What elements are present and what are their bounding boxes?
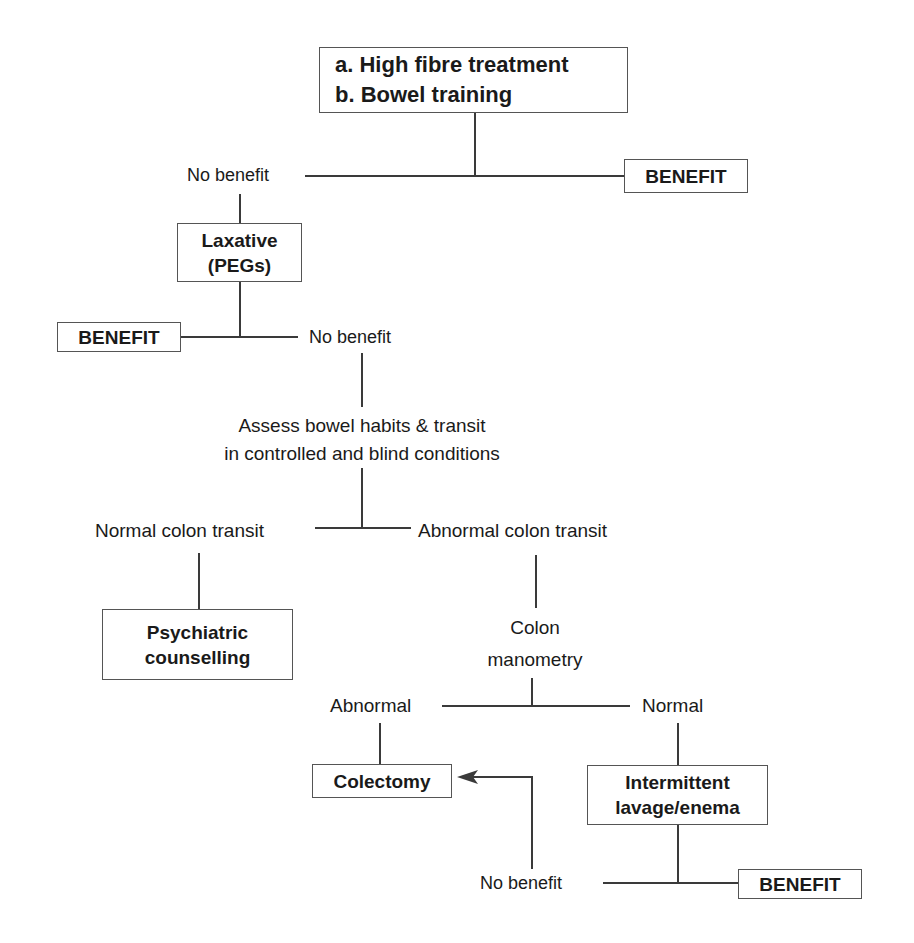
connector-assess-down (361, 468, 363, 528)
connector-to-lavage (677, 723, 679, 765)
psychiatric-line2: counselling (145, 645, 251, 670)
level3-no-benefit-label: No benefit (480, 871, 562, 895)
connector-to-manometry (535, 555, 537, 608)
level1-no-benefit-label: No benefit (187, 163, 269, 187)
normal-transit-label: Normal colon transit (95, 519, 264, 543)
level1-benefit-label: BENEFIT (645, 164, 726, 189)
colectomy-label: Colectomy (333, 769, 430, 794)
connector-manometry-horizontal (442, 705, 630, 707)
abnormal-transit-label: Abnormal colon transit (418, 519, 607, 543)
psychiatric-box: Psychiatric counselling (102, 609, 293, 680)
manometry-label: Colon manometry (460, 612, 610, 676)
manometry-line2: manometry (460, 644, 610, 676)
level2-benefit-box: BENEFIT (57, 322, 181, 352)
start-line-a: a. High fibre treatment (335, 50, 568, 80)
laxative-box: Laxative (PEGs) (177, 223, 302, 282)
psychiatric-line1: Psychiatric (147, 620, 248, 645)
connector-level2-horizontal (181, 336, 298, 338)
start-box-treatment: a. High fibre treatment b. Bowel trainin… (319, 47, 628, 113)
level3-benefit-label: BENEFIT (759, 872, 840, 897)
level1-benefit-box: BENEFIT (624, 159, 748, 193)
laxative-line1: Laxative (201, 228, 277, 253)
connector-to-colectomy (379, 723, 381, 764)
connector-start-down (474, 113, 476, 176)
connector-laxative-down (239, 282, 241, 337)
level3-benefit-box: BENEFIT (738, 869, 862, 899)
connector-manometry-down (531, 678, 533, 707)
connector-to-assess (361, 353, 363, 407)
manometry-abnormal-label: Abnormal (330, 694, 411, 718)
start-line-b: b. Bowel training (335, 80, 512, 110)
manometry-normal-label: Normal (642, 694, 703, 718)
laxative-line2: (PEGs) (208, 253, 271, 278)
lavage-line1: Intermittent (625, 770, 730, 795)
level2-no-benefit-label: No benefit (309, 325, 391, 349)
connector-transit-horizontal (315, 527, 411, 529)
arrow-to-colectomy-icon (0, 0, 914, 943)
connector-level3-horizontal (603, 882, 738, 884)
connector-to-psychiatric (198, 553, 200, 609)
connector-lavage-down (677, 825, 679, 883)
assess-label: Assess bowel habits & transit in control… (162, 412, 562, 468)
manometry-line1: Colon (460, 612, 610, 644)
colectomy-box: Colectomy (312, 764, 452, 798)
connector-to-laxative (239, 194, 241, 223)
assess-line1: Assess bowel habits & transit (162, 412, 562, 440)
level2-benefit-label: BENEFIT (78, 325, 159, 350)
assess-line2: in controlled and blind conditions (162, 440, 562, 468)
lavage-line2: lavage/enema (615, 795, 740, 820)
connector-level1-horizontal (305, 175, 624, 177)
lavage-box: Intermittent lavage/enema (587, 765, 768, 825)
